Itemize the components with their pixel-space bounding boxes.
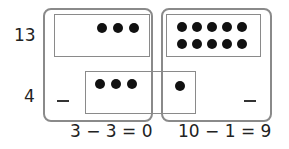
dot (129, 23, 139, 33)
equation-ones: 3 − 3 = 0 (70, 123, 153, 140)
top-tens-box (166, 14, 261, 57)
dot (207, 22, 217, 32)
dot (222, 22, 232, 32)
row-label-13: 13 (14, 27, 36, 44)
dot (237, 22, 247, 32)
dot (111, 79, 121, 89)
minus-sign-left (57, 100, 69, 102)
minus-sign-right (244, 100, 256, 102)
bottom-subtrahend-box (85, 71, 196, 114)
dot (192, 22, 202, 32)
dot (113, 23, 123, 33)
dot (192, 39, 202, 49)
dot (127, 79, 137, 89)
dot (177, 22, 187, 32)
dot (177, 39, 187, 49)
dot (95, 79, 105, 89)
dot (97, 23, 107, 33)
equation-tens: 10 − 1 = 9 (178, 123, 271, 140)
dot (207, 39, 217, 49)
row-label-4: 4 (24, 88, 35, 105)
dot (222, 39, 232, 49)
dot (175, 81, 185, 91)
dot (237, 39, 247, 49)
top-ones-box (54, 14, 150, 57)
